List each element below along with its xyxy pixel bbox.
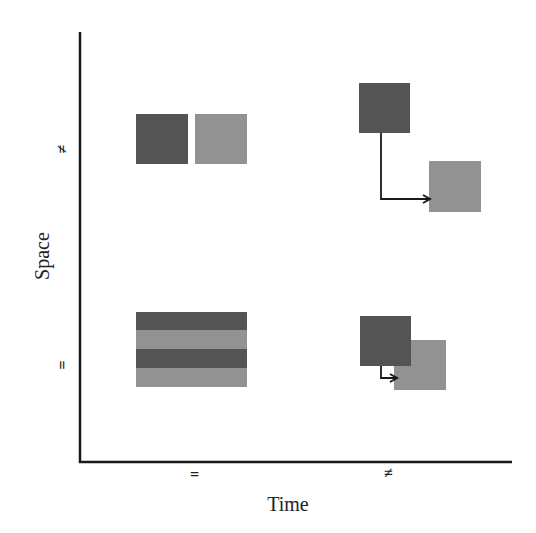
x-axis-label: Time: [0, 493, 536, 516]
dark-block: [360, 316, 411, 366]
x-tick-not-equal: ≠: [384, 464, 393, 482]
x-tick-equal: =: [190, 466, 199, 484]
light-stripe: [136, 368, 247, 387]
light-stripe: [136, 330, 247, 349]
quadrant-diff-time-same-space: [360, 316, 446, 390]
dark-stripe: [136, 349, 247, 368]
y-tick-not-equal: ≠: [53, 145, 71, 154]
quadrant-same-time-same-space: [136, 312, 247, 387]
y-axis-label: Space: [31, 232, 54, 280]
light-block: [195, 114, 247, 164]
quadrant-same-time-diff-space: [136, 114, 247, 164]
dark-block: [136, 114, 188, 164]
dark-block: [359, 83, 410, 133]
time-space-diagram: [0, 0, 536, 533]
light-block: [429, 161, 481, 212]
arrow-icon: [381, 133, 430, 199]
dark-stripe: [136, 312, 247, 330]
quadrant-diff-time-diff-space: [359, 83, 481, 212]
y-tick-equal: =: [54, 360, 72, 369]
